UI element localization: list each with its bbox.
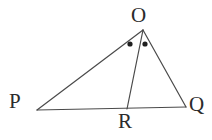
segment-OQ	[143, 30, 186, 107]
angle-mark-dot-right	[142, 41, 147, 46]
vertex-label-o: O	[131, 5, 146, 26]
triangle-diagram-svg	[0, 0, 212, 140]
vertex-label-q: Q	[189, 94, 204, 115]
vertex-label-r: R	[118, 111, 132, 132]
vertex-label-p: P	[9, 91, 21, 112]
segment-PQ	[37, 107, 186, 110]
geometry-figure: O P Q R	[0, 0, 212, 140]
segment-OP	[37, 30, 143, 110]
angle-mark-dot-left	[127, 41, 132, 46]
